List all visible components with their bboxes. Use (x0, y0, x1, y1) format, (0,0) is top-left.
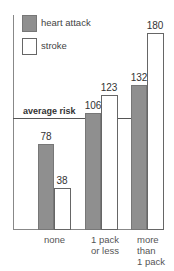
legend-swatch-stroke (22, 38, 37, 55)
legend-label-heart-attack: heart attack (41, 17, 91, 28)
bar-stroke (54, 188, 71, 230)
y-axis-line (13, 15, 14, 229)
bar-heart-attack (38, 144, 54, 230)
bar-stroke (147, 33, 164, 230)
average-risk-label: average risk (23, 106, 76, 116)
bar-stroke (101, 95, 118, 230)
bar-value-label: 180 (140, 20, 170, 31)
legend-label-stroke: stroke (41, 40, 67, 51)
average-risk-line-segment (117, 118, 131, 119)
average-risk-line (13, 118, 85, 119)
category-label: none (44, 234, 65, 245)
legend-swatch-heart-attack (22, 15, 37, 32)
category-label: morethan1 pack (137, 234, 165, 267)
category-label: 1 packor less (91, 234, 119, 256)
bar-heart-attack (131, 85, 147, 230)
bar-value-label: 123 (94, 82, 124, 93)
bar-value-label: 38 (47, 175, 77, 186)
bar-value-label: 78 (31, 131, 61, 142)
bar-heart-attack (85, 113, 101, 230)
